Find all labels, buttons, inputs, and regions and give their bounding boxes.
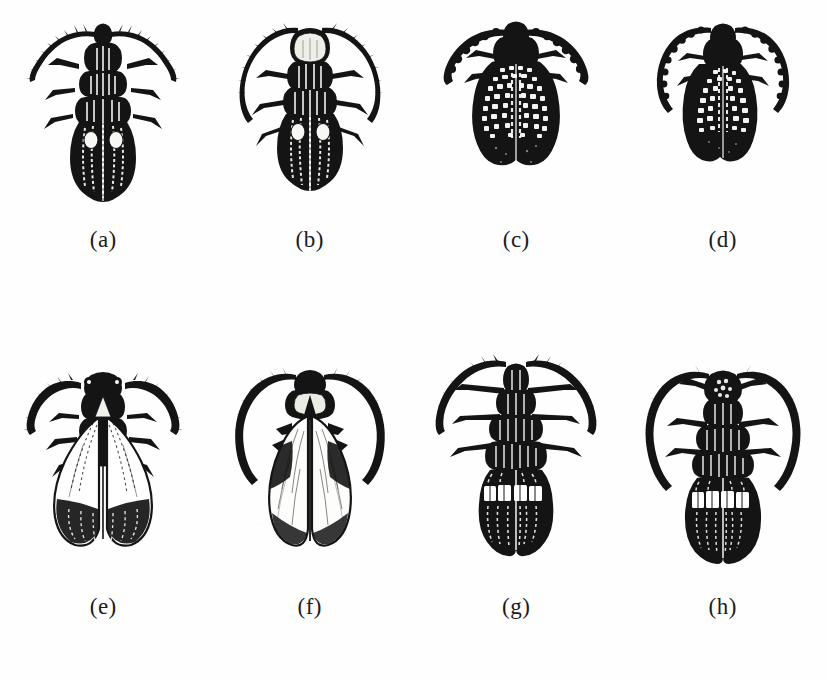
pale-spot-right [316, 124, 330, 141]
pale-spot-right [109, 132, 123, 149]
beetle-drawing-d [637, 6, 809, 206]
beetle-drawing-g [426, 344, 606, 569]
specimen-caption-b: (b) [296, 228, 324, 251]
specimen-illustration-e [0, 341, 207, 573]
specimen-caption-a: (a) [90, 228, 117, 251]
beetle-drawing-f [220, 349, 400, 564]
beetle-drawing-c [430, 6, 602, 206]
specimen-cell-c: (c) [413, 0, 620, 341]
specimen-caption-e: (e) [90, 595, 117, 618]
beetle-drawing-h [633, 344, 813, 569]
specimen-caption-g: (g) [502, 595, 530, 618]
specimen-caption-f: (f) [298, 595, 322, 618]
specimen-cell-h: (h) [620, 341, 826, 681]
specimen-caption-h: (h) [709, 595, 737, 618]
specimen-illustration-a [0, 0, 207, 212]
specimen-cell-a: (a) [0, 0, 207, 341]
specimen-cell-b: (b) [207, 0, 414, 341]
specimen-cell-f: (f) [207, 341, 414, 681]
figure-plate: (a) [0, 0, 826, 681]
specimen-illustration-f [207, 341, 414, 573]
specimen-illustration-h [620, 341, 826, 573]
specimen-cell-g: (g) [413, 341, 620, 681]
specimen-grid: (a) [0, 0, 826, 681]
specimen-caption-c: (c) [503, 228, 530, 251]
specimen-illustration-g [413, 341, 620, 573]
specimen-caption-d: (d) [709, 228, 737, 251]
specimen-illustration-d [620, 0, 826, 212]
specimen-illustration-c [413, 0, 620, 212]
beetle-drawing-e [13, 349, 193, 564]
beetle-drawing-b [224, 6, 396, 206]
beetle-drawing-a [17, 6, 189, 206]
specimen-cell-e: (e) [0, 341, 207, 681]
specimen-cell-d: (d) [620, 0, 826, 341]
specimen-illustration-b [207, 0, 414, 212]
pale-spot-left [84, 132, 98, 149]
pale-spot-left [291, 124, 305, 141]
